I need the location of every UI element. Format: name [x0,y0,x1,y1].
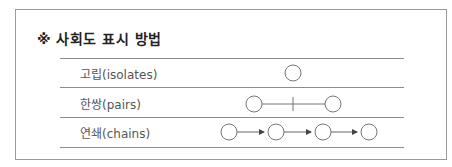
isolate-node-icon [285,65,301,81]
sociogram-symbols [0,0,452,167]
pair-symbol-icon [246,96,341,112]
chain-symbol-icon [221,124,377,140]
